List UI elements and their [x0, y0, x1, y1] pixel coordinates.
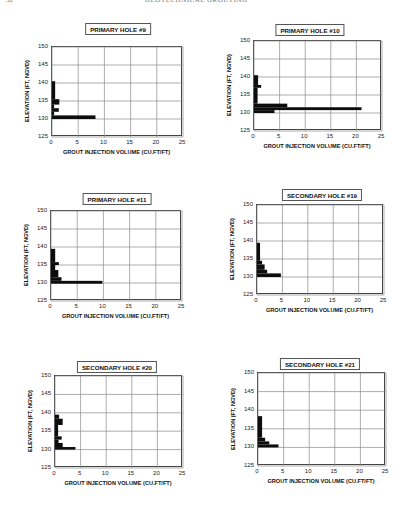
y-tick-label: 130 — [34, 115, 48, 121]
plot-area — [50, 210, 181, 300]
y-tick-label: 135 — [34, 97, 48, 103]
y-axis-label: ELEVATION (FT, NGVD) — [226, 54, 232, 116]
x-tick-label: 20 — [152, 139, 159, 145]
data-bar — [254, 104, 287, 108]
y-tick-label: 140 — [33, 243, 47, 249]
y-tick-label: 135 — [37, 427, 51, 433]
y-tick-label: 145 — [240, 388, 254, 394]
data-bar — [55, 447, 75, 450]
x-tick-label: 25 — [380, 297, 387, 303]
data-bar — [55, 425, 58, 436]
y-tick-label: 130 — [240, 443, 254, 449]
data-bar — [55, 443, 63, 447]
plot-area — [54, 375, 182, 467]
x-axis-label: GROUT INJECTION VOLUME (CU.FT/FT) — [64, 480, 171, 486]
x-tick-label: 15 — [326, 133, 333, 139]
data-bar — [55, 415, 59, 419]
y-tick-label: 150 — [240, 369, 254, 375]
page-number: 32 — [6, 0, 13, 4]
data-bar — [52, 105, 54, 109]
y-tick-label: 130 — [236, 109, 250, 115]
y-axis-label: ELEVATION (FT, NGVD) — [24, 60, 30, 122]
plot-area — [256, 204, 383, 294]
x-tick-label: 5 — [78, 470, 81, 476]
x-tick-label: 0 — [48, 303, 51, 309]
x-tick-label: 15 — [127, 470, 134, 476]
x-tick-label: 0 — [255, 468, 258, 474]
data-bar — [51, 281, 102, 284]
x-tick-label: 25 — [179, 470, 186, 476]
x-tick-label: 0 — [49, 139, 52, 145]
y-tick-label: 140 — [239, 237, 253, 243]
x-axis-label: GROUT INJECTION VOLUME (CU.FT/FT) — [266, 307, 373, 313]
y-tick-label: 130 — [239, 273, 253, 279]
x-tick-label: 5 — [277, 133, 280, 139]
y-tick-label: 125 — [236, 127, 250, 133]
data-bar — [51, 265, 55, 270]
chart-title: PRIMARY HOLE #11 — [83, 193, 152, 205]
x-axis-label: GROUT INJECTION VOLUME (CU.FT/FT) — [62, 313, 169, 319]
x-axis-label: GROUT INJECTION VOLUME (CU.FT/FT) — [267, 478, 374, 484]
y-tick-label: 145 — [239, 219, 253, 225]
y-tick-label: 150 — [37, 372, 51, 378]
data-bar — [51, 277, 61, 281]
x-tick-label: 15 — [330, 468, 337, 474]
x-tick-label: 15 — [329, 297, 336, 303]
y-tick-label: 150 — [34, 43, 48, 49]
x-tick-label: 15 — [126, 139, 133, 145]
x-tick-label: 20 — [352, 133, 359, 139]
y-tick-label: 140 — [37, 409, 51, 415]
x-tick-label: 15 — [125, 303, 132, 309]
plot-svg — [55, 376, 183, 468]
data-bar — [52, 81, 55, 99]
data-bar — [254, 85, 261, 88]
x-axis-label: GROUT INJECTION VOLUME (CU.FT/FT) — [263, 143, 370, 149]
data-bar — [258, 444, 278, 447]
x-tick-label: 5 — [280, 297, 283, 303]
plot-svg — [257, 205, 384, 295]
y-tick-label: 125 — [239, 291, 253, 297]
y-tick-label: 130 — [33, 279, 47, 285]
x-tick-label: 20 — [356, 468, 363, 474]
data-bar — [254, 75, 258, 85]
plot-svg — [254, 41, 382, 131]
x-tick-label: 20 — [153, 470, 160, 476]
data-bar — [52, 99, 59, 104]
data-bar — [52, 115, 95, 119]
chart-title: PRIMARY HOLE #10 — [275, 24, 344, 36]
y-tick-label: 125 — [240, 462, 254, 468]
y-tick-label: 150 — [236, 37, 250, 43]
y-tick-label: 125 — [34, 133, 48, 139]
x-tick-label: 0 — [251, 133, 254, 139]
plot-area — [253, 40, 381, 130]
data-bar — [51, 249, 55, 262]
data-bar — [257, 273, 281, 277]
y-tick-label: 135 — [236, 91, 250, 97]
x-tick-label: 25 — [179, 139, 186, 145]
chart-title: SECONDARY HOLE #20 — [77, 361, 157, 373]
y-tick-label: 130 — [37, 446, 51, 452]
data-bar — [258, 416, 262, 438]
y-tick-label: 135 — [239, 255, 253, 261]
data-bar — [254, 110, 274, 113]
data-bar — [55, 436, 62, 439]
x-axis-label: GROUT INJECTION VOLUME (CU.FT/FT) — [63, 149, 170, 155]
y-tick-label: 145 — [34, 61, 48, 67]
data-bar — [254, 107, 362, 110]
y-tick-label: 145 — [236, 55, 250, 61]
y-tick-label: 140 — [236, 73, 250, 79]
data-bar — [52, 112, 54, 116]
data-bar — [254, 88, 258, 104]
data-bar — [55, 440, 59, 443]
data-bar — [51, 270, 58, 277]
y-tick-label: 140 — [240, 406, 254, 412]
data-bar — [52, 108, 59, 112]
chart-title: PRIMARY HOLE #9 — [85, 23, 151, 35]
y-axis-label: ELEVATION (FT, NGVD) — [23, 224, 29, 286]
x-tick-label: 20 — [151, 303, 158, 309]
x-tick-label: 20 — [354, 297, 361, 303]
data-bar — [257, 264, 265, 269]
data-bar — [258, 438, 265, 442]
data-bar — [257, 243, 260, 261]
page-header: 32 GEOTECHNICAL GROUTING — [0, 0, 405, 10]
